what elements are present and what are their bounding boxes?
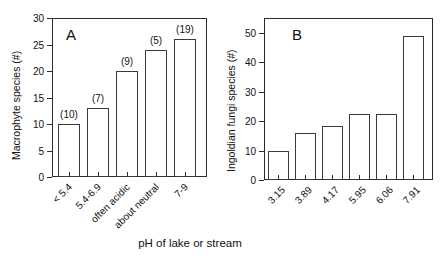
shared-x-axis-label: pH of lake or stream (60, 237, 320, 249)
panel-a-xtick-mark (185, 172, 186, 177)
panel-b-bar-4 (376, 114, 397, 180)
panel-b-ytick-mark (259, 180, 264, 181)
panel-a-ytick-25: 25 (26, 41, 44, 51)
panel-b-xtick-mark (413, 175, 414, 180)
panel-b-xtick-mark (359, 175, 360, 180)
panel-b-ytick-mark (259, 62, 264, 63)
panel-a-bar-label-0: (10) (49, 110, 89, 120)
panel-b-xtick-mark (278, 175, 279, 180)
panel-a-ytick-5: 5 (26, 147, 44, 157)
panel-a-bar-label-4: (19) (165, 25, 205, 35)
panel-a-ytick-0: 0 (26, 173, 44, 183)
panel-b-y-axis-label: Ingoldian fungi species (#) (226, 49, 237, 172)
panel-b-ytick-10: 10 (238, 147, 256, 157)
panel-b-xtick-mark (386, 175, 387, 180)
panel-a-xtick-mark (69, 172, 70, 177)
panel-a-ytick-mark (47, 71, 52, 72)
panel-b-ytick-50: 50 (238, 29, 256, 39)
panel-b-ytick-40: 40 (238, 58, 256, 68)
panel-a-bar-label-1: (7) (78, 94, 118, 104)
panel-a-xtick-mark (98, 172, 99, 177)
figure-canvas: A Macrophyte species (#) 0 5 10 15 20 25… (0, 0, 440, 259)
panel-a-bar-1 (87, 108, 109, 177)
panel-a-bar-label-3: (5) (136, 36, 176, 46)
panel-b-ytick-0: 0 (238, 176, 256, 186)
panel-a-xtick-label-4: 7-9 (130, 182, 190, 242)
panel-a-ytick-20: 20 (26, 67, 44, 77)
panel-a-ytick-15: 15 (26, 94, 44, 104)
panel-a-bar-0 (58, 124, 80, 177)
panel-a-ytick-mark (47, 18, 52, 19)
panel-b-bar-1 (295, 133, 316, 180)
panel-b-ytick-20: 20 (238, 117, 256, 127)
panel-b-ytick-mark (259, 121, 264, 122)
panel-b-ytick-30: 30 (238, 88, 256, 98)
panel-b-bar-3 (349, 114, 370, 180)
panel-a-ytick-mark (47, 177, 52, 178)
panel-b-bar-2 (322, 126, 343, 181)
panel-b-letter: B (292, 26, 303, 43)
panel-b-xtick-mark (305, 175, 306, 180)
panel-a-bar-3 (145, 50, 167, 177)
panel-b-ytick-mark (259, 33, 264, 34)
panel-a-ytick-mark (47, 45, 52, 46)
panel-a-xtick-mark (156, 172, 157, 177)
panel-a-bar-4 (174, 39, 196, 177)
panel-a-bar-label-2: (9) (107, 57, 147, 67)
panel-a-xtick-mark (127, 172, 128, 177)
panel-a-ytick-mark (47, 151, 52, 152)
panel-b-ytick-mark (259, 92, 264, 93)
panel-a-ytick-10: 10 (26, 120, 44, 130)
panel-b-bar-5 (403, 36, 424, 180)
panel-a-ytick-mark (47, 98, 52, 99)
panel-a-bar-2 (116, 71, 138, 177)
panel-b-ytick-mark (259, 151, 264, 152)
panel-b-xtick-mark (332, 175, 333, 180)
panel-a-y-axis-label: Macrophyte species (#) (11, 51, 22, 160)
panel-a-letter: A (66, 26, 77, 43)
panel-a-ytick-mark (47, 124, 52, 125)
panel-a-ytick-30: 30 (26, 14, 44, 24)
